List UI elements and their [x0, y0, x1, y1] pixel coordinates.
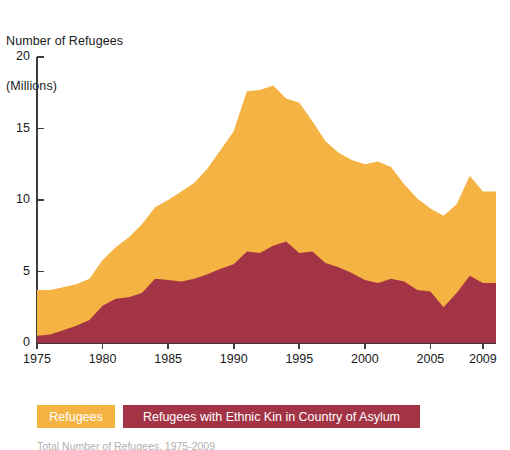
x-tick-mark	[36, 343, 38, 349]
x-tick-label: 1985	[138, 352, 198, 366]
x-tick-mark	[102, 343, 104, 349]
x-tick-label: 1995	[269, 352, 329, 366]
y-axis-title-line1: Number of Refugees	[6, 34, 123, 49]
x-tick-mark	[167, 343, 169, 349]
x-tick-label: 1980	[73, 352, 133, 366]
y-tick-label: 5	[0, 264, 30, 278]
x-tick-label: 2000	[335, 352, 395, 366]
y-tick-label: 20	[0, 49, 30, 63]
y-tick-label: 0	[0, 335, 30, 349]
x-tick-mark	[298, 343, 300, 349]
x-tick-mark	[364, 343, 366, 349]
legend-label-refugees: Refugees	[49, 410, 103, 424]
stacked-area-plot	[37, 57, 496, 343]
legend-item-refugees[interactable]: Refugees	[37, 405, 115, 428]
legend-label-ethnic-kin: Refugees with Ethnic Kin in Country of A…	[143, 410, 400, 424]
x-tick-label: 1975	[7, 352, 67, 366]
x-tick-mark	[233, 343, 235, 349]
x-tick-label: 1990	[204, 352, 264, 366]
legend-item-ethnic-kin[interactable]: Refugees with Ethnic Kin in Country of A…	[123, 405, 420, 428]
chart-caption: Total Number of Refugees, 1975-2009	[37, 440, 507, 450]
x-tick-mark	[430, 343, 432, 349]
plot-area	[37, 57, 496, 343]
y-tick-label: 10	[0, 192, 30, 206]
x-tick-mark	[482, 343, 484, 349]
refugees-area-chart: Number of Refugees (Millions) 20151050 1…	[0, 0, 510, 450]
y-tick-label: 15	[0, 121, 30, 135]
x-tick-label: 2009	[453, 352, 510, 366]
x-tick-label: 2005	[400, 352, 460, 366]
